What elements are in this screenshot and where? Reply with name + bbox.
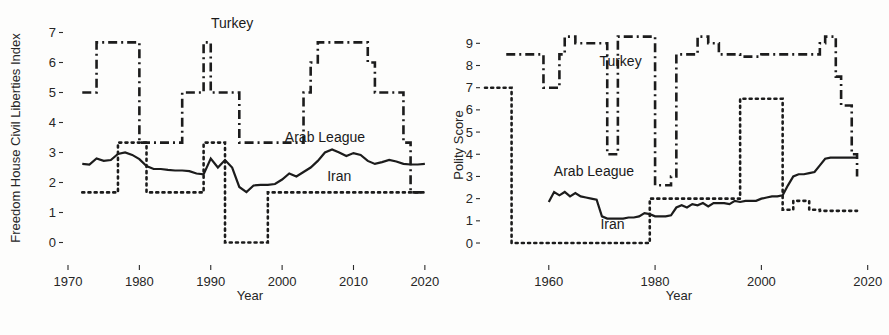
x-tick-label: 2000 [268,274,297,289]
y-tick-label: 6 [49,55,56,70]
series-label-arab-league: Arab League [554,163,634,179]
x-tick-label: 1980 [125,274,154,289]
y-tick-label: 6 [466,102,473,117]
series-line-arab-league [82,150,425,193]
y-tick-label: 7 [49,25,56,40]
x-tick-label: 2010 [339,274,368,289]
chart-panel-right: 01234567891960198020002020YearPolity Sco… [445,0,889,335]
x-tick-label: 1970 [54,274,83,289]
y-axis-title: Polity Score [451,110,466,179]
polity-score-line-chart: 01234567891960198020002020YearPolity Sco… [445,0,889,335]
series-label-turkey: Turkey [211,15,253,31]
civil-liberties-line-chart: 01234567197019801990200020102020YearFree… [0,0,445,335]
x-tick-label: 2020 [853,274,882,289]
y-tick-label: 4 [49,115,56,130]
y-tick-label: 8 [466,58,473,73]
y-tick-label: 7 [466,80,473,95]
y-tick-label: 5 [49,85,56,100]
y-axis-title: Freedom House Civil Liberties Index [8,33,23,243]
chart-panel-left: 01234567197019801990200020102020YearFree… [0,0,445,335]
y-tick-label: 5 [466,125,473,140]
series-line-iran [485,88,857,243]
x-axis-title: Year [666,288,693,303]
y-tick-label: 1 [466,213,473,228]
series-label-arab-league: Arab League [285,129,365,145]
y-tick-label: 1 [49,205,56,220]
x-tick-label: 1980 [641,274,670,289]
y-tick-label: 4 [466,147,473,162]
figure-container: 01234567197019801990200020102020YearFree… [0,0,889,335]
x-axis-title: Year [237,288,264,303]
y-tick-label: 3 [49,145,56,160]
series-line-turkey [82,42,425,192]
y-tick-label: 9 [466,36,473,51]
series-label-iran: Iran [600,216,624,232]
x-tick-label: 1960 [534,274,563,289]
y-tick-label: 3 [466,169,473,184]
y-tick-label: 0 [49,235,56,250]
series-line-iran [82,143,425,243]
x-tick-label: 1990 [196,274,225,289]
x-tick-label: 2000 [747,274,776,289]
x-tick-label: 2020 [410,274,439,289]
y-tick-label: 2 [466,191,473,206]
series-label-turkey: Turkey [599,53,641,69]
y-tick-label: 0 [466,236,473,251]
series-label-iran: Iran [327,168,351,184]
y-tick-label: 2 [49,175,56,190]
